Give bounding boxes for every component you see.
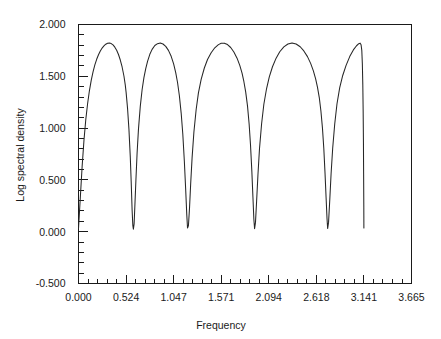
x-axis-ticks [79, 275, 403, 284]
x-tick-label: 2.094 [256, 291, 282, 303]
x-axis-tick-labels: 0.0000.5241.0471.5712.0942.6183.1413.665 [65, 291, 424, 303]
y-axis-title: Log spectral density [14, 108, 26, 202]
y-tick-label: 2.000 [39, 18, 65, 30]
x-tick-label: 2.618 [303, 291, 329, 303]
x-tick-label: 1.571 [208, 291, 234, 303]
x-tick-label: 3.141 [351, 291, 377, 303]
x-tick-label: 3.665 [398, 291, 424, 303]
data-series-group [79, 43, 364, 229]
chart-figure: 2.0001.5001.0000.5000.000-0.500 0.0000.5… [0, 0, 441, 339]
plot-frame [79, 25, 412, 284]
y-tick-label: 1.000 [39, 122, 65, 134]
series-log-spectral-density [79, 43, 364, 229]
x-tick-label: 0.000 [65, 291, 91, 303]
y-tick-label: 1.500 [39, 70, 65, 82]
y-axis-tick-labels: 2.0001.5001.0000.5000.000-0.500 [36, 18, 66, 289]
x-axis-title: Frequency [196, 319, 246, 331]
spectral-density-chart: 2.0001.5001.0000.5000.000-0.500 0.0000.5… [0, 0, 441, 339]
x-tick-label: 0.524 [113, 291, 139, 303]
y-tick-label: -0.500 [36, 277, 66, 289]
y-tick-label: 0.500 [39, 174, 65, 186]
x-tick-label: 1.047 [160, 291, 186, 303]
y-tick-label: 0.000 [39, 226, 65, 238]
